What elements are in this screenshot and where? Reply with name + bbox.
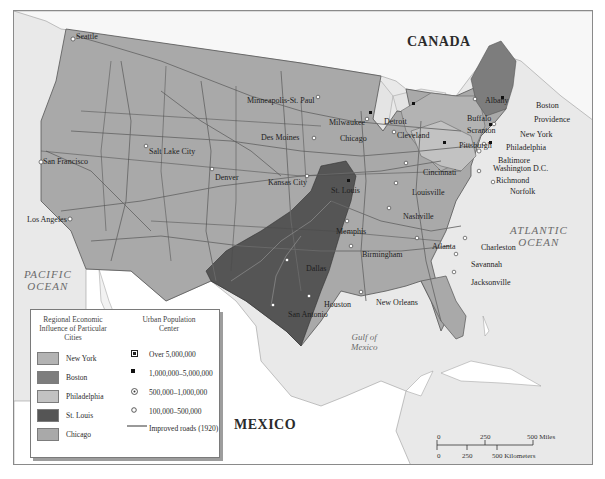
city-label: Dallas <box>306 265 326 273</box>
city-label: Memphis <box>336 228 366 236</box>
city-label: Chicago <box>340 135 367 143</box>
city-label: Milwaukee <box>329 119 365 127</box>
swatch-boston <box>37 371 59 384</box>
city-label: Philadelphia <box>506 144 546 152</box>
label-canada: CANADA <box>407 34 471 50</box>
city-label: Pittsburgh <box>459 142 492 150</box>
city-label: Birmingham <box>362 251 402 259</box>
city-label: Providence <box>534 116 570 124</box>
city-label: Jacksonville <box>471 279 511 287</box>
legend-item-chicago: Chicago <box>37 428 91 441</box>
legend-pop-1m-5m: 1,000,000–5,000,000 <box>131 369 213 378</box>
legend-item-boston: Boston <box>37 371 87 384</box>
map-legend: Regional Economic Influence of Particula… <box>30 309 220 458</box>
label-gulf-of-mexico: Gulf of Mexico <box>351 333 377 353</box>
city-label: Seattle <box>76 33 98 41</box>
city-label: New Orleans <box>376 299 418 307</box>
scale-km-500: 500 Kilometers <box>492 452 535 460</box>
scale-miles-250: 250 <box>480 433 491 441</box>
scale-bar <box>437 440 533 450</box>
city-label: San Francisco <box>43 158 88 166</box>
city-label: Nashville <box>403 213 434 221</box>
city-label: Salt Lake City <box>149 148 195 156</box>
city-label: Los Angeles <box>27 216 67 224</box>
city-label: Minneapolis-St. Paul <box>247 97 315 105</box>
legend-pop-500k-1m: 500,000–1,000,000 <box>131 388 207 397</box>
city-label: Atlanta <box>432 243 456 251</box>
legend-pop-100k-500k: 100,000–500,000 <box>131 407 202 416</box>
city-label: San Antonio <box>288 311 328 319</box>
legend-pop-over-5m: Over 5,000,000 <box>131 350 196 359</box>
city-label: Richmond <box>496 177 529 185</box>
city-label: Detroit <box>384 118 407 126</box>
scale-km-0: 0 <box>437 452 441 460</box>
city-label: Charleston <box>481 244 516 252</box>
city-label: Kansas City <box>268 179 307 187</box>
swatch-philadelphia <box>37 390 59 403</box>
city-label: Denver <box>215 174 239 182</box>
city-label: Des Moines <box>261 134 299 142</box>
city-label: Albany <box>485 97 509 105</box>
city-label: Cleveland <box>397 132 429 140</box>
legend-improved-roads: Improved roads (1920) <box>127 424 218 433</box>
swatch-st-louis <box>37 409 59 422</box>
city-label: Louisville <box>412 189 444 197</box>
label-atlantic-ocean: ATLANTIC OCEAN <box>510 225 568 248</box>
legend-item-philadelphia: Philadelphia <box>37 390 104 403</box>
city-label: Washington D.C. <box>493 165 548 173</box>
city-label: St. Louis <box>331 187 360 195</box>
city-label: Boston <box>536 102 559 110</box>
label-mexico: MEXICO <box>234 417 296 433</box>
legend-region-heading: Regional Economic Influence of Particula… <box>35 315 111 342</box>
scale-miles-0: 0 <box>437 433 441 441</box>
city-label: Savannah <box>471 261 502 269</box>
scale-miles-500: 500 Miles <box>527 433 555 441</box>
swatch-new-york <box>37 352 59 365</box>
city-label: Norfolk <box>510 188 535 196</box>
city-label: Scranton <box>467 127 495 135</box>
swatch-chicago <box>37 428 59 441</box>
city-label: Cincinnati <box>423 169 456 177</box>
scale-km-250: 250 <box>462 452 473 460</box>
city-label: Buffalo <box>467 115 491 123</box>
label-pacific-ocean: PACIFIC OCEAN <box>24 269 72 292</box>
city-label: New York <box>520 131 552 139</box>
legend-population-heading: Urban Population Center <box>133 315 205 333</box>
legend-item-st-louis: St. Louis <box>37 409 93 422</box>
city-label: Houston <box>324 301 351 309</box>
legend-item-new-york: New York <box>37 352 96 365</box>
